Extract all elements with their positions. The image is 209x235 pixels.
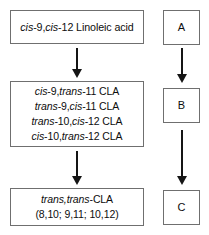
tt-suffix: -CLA: [89, 193, 113, 205]
cla-isomer-line: cis-10,trans-12 CLA: [32, 129, 123, 144]
tag-box-a-label: A: [178, 22, 185, 33]
isomer-mid: -9,: [58, 100, 70, 112]
isomer-prefix-1: trans: [32, 115, 55, 127]
tag-box-b-label: B: [178, 100, 185, 111]
isomer-suffix: -11 CLA: [82, 100, 119, 112]
node-linoleic-acid: cis-9,cis-12 Linoleic acid: [10, 10, 144, 44]
arrow-shaft: [181, 130, 183, 177]
isomer-prefix-2: cis: [72, 115, 85, 127]
tag-box-c: C: [163, 190, 200, 225]
tt-prefix: trans,trans: [41, 193, 90, 205]
cla-isomer-line: trans-10,cis-12 CLA: [32, 114, 123, 129]
linoleic-suffix: -12 Linoleic acid: [58, 21, 134, 33]
arrow-b-to-c: [175, 130, 189, 185]
isomer-prefix-1: trans: [35, 100, 58, 112]
tag-box-b: B: [163, 88, 200, 123]
isomer-prefix-2: cis: [70, 100, 83, 112]
arrow-linoleic-to-cla: [70, 48, 84, 78]
arrow-head: [72, 69, 82, 78]
isomer-mid: -9,: [47, 85, 59, 97]
isomer-prefix-2: trans: [62, 130, 85, 142]
tag-box-a: A: [163, 10, 200, 45]
isomer-prefix-1: cis: [32, 130, 45, 142]
flowchart-diagram: cis-9,cis-12 Linoleic acid cis-9,trans-1…: [0, 0, 209, 235]
isomer-suffix: -12 CLA: [85, 130, 123, 142]
arrow-head: [177, 176, 187, 185]
isomer-suffix: -11 CLA: [82, 85, 119, 97]
cla-isomer-line: cis-9,trans-11 CLA: [35, 84, 119, 99]
node-cla-isomers: cis-9,trans-11 CLA trans-9,cis-11 CLA tr…: [10, 81, 144, 147]
isomer-prefix-1: cis: [35, 85, 48, 97]
isomer-mid: -10,: [44, 130, 62, 142]
arrow-shaft: [76, 48, 78, 70]
arrow-a-to-b: [175, 48, 189, 83]
trans-trans-positions: (8,10; 9,11; 10,12): [35, 207, 118, 222]
linoleic-prefix-2: cis: [45, 21, 58, 33]
trans-trans-title: trans,trans-CLA: [41, 192, 113, 207]
cla-isomer-line: trans-9,cis-11 CLA: [35, 99, 119, 114]
node-linoleic-acid-text: cis-9,cis-12 Linoleic acid: [20, 20, 133, 35]
isomer-prefix-2: trans: [59, 85, 82, 97]
linoleic-prefix-1: cis: [20, 21, 33, 33]
arrow-cla-to-trans-trans: [70, 151, 84, 185]
linoleic-mid: -9,: [33, 21, 45, 33]
arrow-head: [177, 74, 187, 83]
arrow-shaft: [76, 151, 78, 177]
node-trans-trans-cla: trans,trans-CLA (8,10; 9,11; 10,12): [10, 188, 144, 226]
tag-box-c-label: C: [178, 202, 186, 213]
isomer-mid: -10,: [54, 115, 72, 127]
isomer-suffix: -12 CLA: [85, 115, 123, 127]
arrow-shaft: [181, 48, 183, 75]
arrow-head: [72, 176, 82, 185]
